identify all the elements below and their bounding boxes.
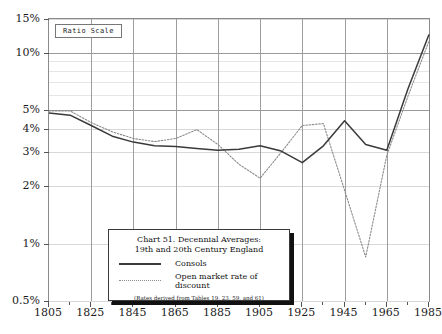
legend-panel: Chart 51. Decennial Averages: 19th and 2… xyxy=(108,229,290,301)
y-axis-labels: 0.5%1%2%3%4%5%10%15% xyxy=(0,18,44,302)
x-tick-mark-1945 xyxy=(344,302,345,307)
x-axis-label-1945: 1945 xyxy=(330,306,358,319)
ratio-scale-badge: Ratio Scale xyxy=(55,24,122,38)
x-axis-labels: 1805182518451865188519051925194519651985 xyxy=(48,304,430,326)
legend-source-note: (Rates derived from Tables 19, 23, 59, a… xyxy=(115,295,283,301)
legend-swatch-solid xyxy=(119,260,161,268)
legend-label-consols: Consols xyxy=(175,259,207,268)
x-axis-label-1805: 1805 xyxy=(34,306,62,319)
legend-item-open-market-rate: Open market rate of discount xyxy=(115,272,283,290)
legend-title-line-1: Chart 51. Decennial Averages: xyxy=(115,235,283,245)
y-axis-label-0.5%: 0.5% xyxy=(12,294,40,307)
y-axis-label-15%: 15% xyxy=(16,12,40,25)
x-axis-label-1885: 1885 xyxy=(203,306,231,319)
x-tick-mark-1925 xyxy=(301,302,302,307)
x-axis-label-1865: 1865 xyxy=(161,306,189,319)
x-axis-label-1925: 1925 xyxy=(287,306,315,319)
y-axis-label-2%: 2% xyxy=(23,179,40,192)
y-axis-label-4%: 4% xyxy=(23,121,40,134)
x-axis-label-1825: 1825 xyxy=(76,306,104,319)
legend-swatch-dotted xyxy=(119,277,161,285)
series-line-consols xyxy=(49,34,429,162)
legend-label-open-market-rate: Open market rate of discount xyxy=(175,272,283,290)
x-axis-label-1845: 1845 xyxy=(118,306,146,319)
x-tick-mark-1825 xyxy=(90,302,91,307)
plot-area: Ratio Scale Chart 51. Decennial Averages… xyxy=(48,18,430,302)
x-tick-minor-1815 xyxy=(69,302,70,305)
x-tick-mark-1985 xyxy=(428,302,429,307)
y-axis-label-5%: 5% xyxy=(23,103,40,116)
legend-item-consols: Consols xyxy=(115,259,283,268)
x-axis-label-1985: 1985 xyxy=(414,306,442,319)
x-axis-label-1965: 1965 xyxy=(372,306,400,319)
x-axis-label-1905: 1905 xyxy=(245,306,273,319)
y-axis-label-10%: 10% xyxy=(16,45,40,58)
x-tick-mark-1965 xyxy=(386,302,387,307)
legend-title-line-2: 19th and 20th Century England xyxy=(115,245,283,255)
x-tick-minor-1975 xyxy=(407,302,408,305)
chart-legend: Chart 51. Decennial Averages: 19th and 2… xyxy=(108,229,290,301)
y-axis-label-3%: 3% xyxy=(23,145,40,158)
x-tick-minor-1935 xyxy=(322,302,323,305)
x-tick-minor-1955 xyxy=(365,302,366,305)
legend-title: Chart 51. Decennial Averages: 19th and 2… xyxy=(115,235,283,255)
y-axis-label-1%: 1% xyxy=(23,236,40,249)
x-tick-mark-1805 xyxy=(48,302,49,307)
